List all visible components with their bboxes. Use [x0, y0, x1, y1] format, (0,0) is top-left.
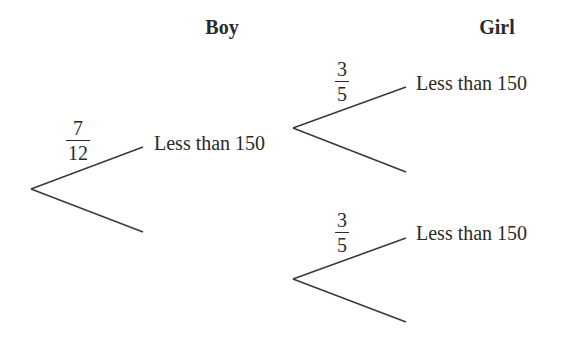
label-boy-top: Less than 150	[154, 132, 265, 155]
denominator: 5	[335, 84, 349, 104]
branch-girl-2-top	[293, 238, 406, 279]
header-boy: Boy	[205, 16, 238, 39]
branch-girl-1-top	[293, 87, 406, 128]
fraction-bar	[335, 232, 349, 233]
fraction-bar	[335, 81, 349, 82]
label-girl-1-top: Less than 150	[416, 72, 527, 95]
numerator: 7	[71, 118, 85, 138]
fraction-bar	[66, 140, 90, 141]
numerator: 3	[335, 59, 349, 79]
tree-lines	[0, 0, 579, 344]
branch-girl-2-bottom	[293, 279, 406, 322]
branch-girl-1-bottom	[293, 128, 406, 172]
header-girl: Girl	[479, 16, 515, 39]
probability-boy-top: 7 12	[66, 118, 90, 163]
probability-girl-2-top: 3 5	[335, 210, 349, 255]
numerator: 3	[335, 210, 349, 230]
probability-girl-1-top: 3 5	[335, 59, 349, 104]
label-girl-2-top: Less than 150	[416, 222, 527, 245]
denominator: 5	[335, 235, 349, 255]
denominator: 12	[66, 143, 90, 163]
branch-boy-bottom	[31, 189, 143, 232]
